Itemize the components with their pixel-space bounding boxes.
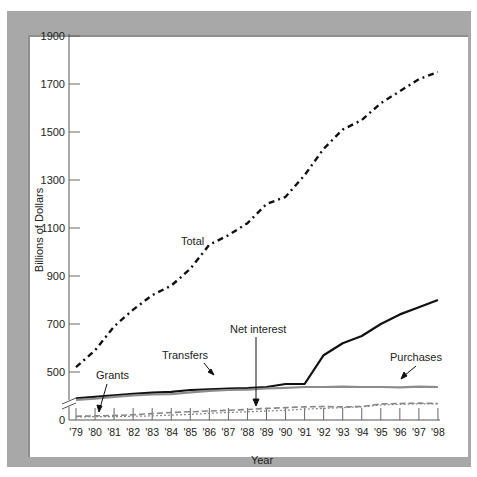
label-grants: Grants [96,369,130,381]
y-tick-label: 700 [47,318,65,330]
x-tick-label: '86 [203,426,217,438]
x-tick-label: '91 [298,426,312,438]
y-tick-label: 1700 [41,78,65,90]
label-transfers: Transfers [162,349,209,361]
x-tick-label: '89 [260,426,274,438]
series-transfers [76,300,438,398]
x-tick-label: '98 [431,426,445,438]
x-tick-label: '93 [336,426,350,438]
x-tick-label: '90 [279,426,293,438]
x-tick-label: '81 [107,426,121,438]
x-tick-label: '82 [126,426,140,438]
label-net-interest: Net interest [230,323,286,335]
x-tick-label: '83 [145,426,159,438]
label-total: Total [181,235,204,247]
x-tick-label: '85 [183,426,197,438]
line-chart: 190017001500130011009007005000'79'80'81'… [0,0,477,477]
y-tick-label: 1300 [41,174,65,186]
label-purchases: Purchases [390,351,442,363]
x-tick-label: '79 [69,426,83,438]
y-tick-label: 1500 [41,126,65,138]
series-net-interest [76,403,438,416]
x-tick-label: '84 [164,426,178,438]
x-tick-label: '96 [393,426,407,438]
x-tick-label: '95 [374,426,388,438]
x-tick-label: '97 [412,426,426,438]
x-tick-label: '94 [355,426,369,438]
y-tick-label: 0 [59,414,65,426]
x-tick-label: '92 [317,426,331,438]
y-tick-label: 900 [47,270,65,282]
x-tick-label: '80 [88,426,102,438]
annotation-arrows [97,337,416,412]
x-tick-label: '87 [222,426,236,438]
x-tick-label: '88 [241,426,255,438]
y-axis-label: Billions of Dollars [33,187,45,272]
y-tick-label: 1900 [41,30,65,42]
y-tick-label: 500 [47,366,65,378]
series-lines [76,72,438,417]
x-axis-label: Year [251,454,274,466]
